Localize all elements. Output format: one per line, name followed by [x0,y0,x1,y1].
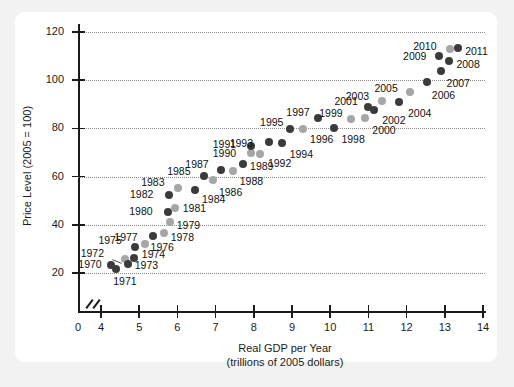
x-axis-title-main: Real GDP per Year [175,341,395,355]
data-point-1974[interactable] [130,254,138,262]
data-point-2003[interactable] [378,97,386,105]
x-tick-4 [100,305,102,318]
data-point-label-1992: 1992 [268,158,291,169]
data-point-1986[interactable] [209,176,217,184]
data-point-1998[interactable] [330,124,338,132]
data-point-1994[interactable] [278,139,286,147]
x-tick-label-14: 14 [468,322,498,333]
data-point-1993[interactable] [265,138,273,146]
y-tick-20 [72,272,85,274]
data-point-label-2004: 2004 [408,108,431,119]
y-tick-60 [72,176,85,178]
x-tick-label-12: 12 [392,322,422,333]
data-point-1995[interactable] [286,125,294,133]
data-point-label-2008: 2008 [456,59,479,70]
x-tick-label-5: 5 [124,322,154,333]
data-point-label-1983: 1983 [141,177,164,188]
data-point-1978[interactable] [160,229,168,237]
scatter-plot: 20406080100120 04567891011121314 1970197… [0,0,514,387]
data-point-2002[interactable] [370,106,378,114]
y-tick-label-20: 20 [30,267,64,278]
data-point-label-1998: 1998 [341,134,364,145]
x-tick-label-13: 13 [430,322,460,333]
data-point-2010[interactable] [446,45,454,53]
data-point-1984[interactable] [191,186,199,194]
data-point-2007[interactable] [437,67,445,75]
x-axis-title: Real GDP per Year (trillions of 2005 dol… [175,341,395,369]
data-point-label-1980: 1980 [129,206,152,217]
gridline-y-40 [78,225,485,226]
data-point-label-2003: 2003 [346,91,369,102]
data-point-2005[interactable] [406,88,414,96]
data-point-label-2007: 2007 [447,78,470,89]
x-tick-6 [177,305,179,318]
data-point-1977[interactable] [149,232,157,240]
data-point-2011[interactable] [454,44,462,52]
data-point-label-1988: 1988 [240,176,263,187]
data-point-1996[interactable] [299,125,307,133]
data-point-label-1978: 1978 [171,232,194,243]
gridline-y-20 [78,273,485,274]
x-tick-10 [329,305,331,318]
data-point-1987[interactable] [217,166,225,174]
data-point-label-2000: 2000 [372,125,395,136]
data-point-2009[interactable] [435,52,443,60]
data-point-label-1987: 1987 [185,159,208,170]
data-point-label-1971: 1971 [113,276,136,287]
data-point-label-1979: 1979 [177,220,200,231]
x-tick-11 [368,305,370,318]
data-point-1975[interactable] [131,243,139,251]
y-tick-40 [72,224,85,226]
data-point-label-1972: 1972 [81,248,104,259]
x-tick-label-11: 11 [353,322,383,333]
x-tick-label-10: 10 [315,322,345,333]
y-tick-label-40: 40 [30,219,64,230]
data-point-label-1999: 1999 [319,108,342,119]
data-point-1989[interactable] [239,160,247,168]
y-tick-120 [72,31,85,33]
data-point-label-2009: 2009 [403,51,426,62]
data-point-label-1976: 1976 [151,242,174,253]
data-point-label-1994: 1994 [290,149,313,160]
x-axis-title-units: (trillions of 2005 dollars) [175,355,395,369]
data-point-label-1986: 1986 [219,187,242,198]
data-point-label-1977: 1977 [114,232,137,243]
y-tick-100 [72,79,85,81]
data-point-1971[interactable] [112,265,120,273]
data-point-1988[interactable] [229,167,237,175]
data-point-2004[interactable] [395,98,403,106]
data-point-1981[interactable] [171,204,179,212]
data-point-1999[interactable] [347,115,355,123]
data-point-1983[interactable] [174,184,182,192]
y-axis-line [78,24,80,313]
data-point-1976[interactable] [141,240,149,248]
y-tick-label-80: 80 [30,122,64,133]
data-point-label-2002: 2002 [382,115,405,126]
x-tick-label-9: 9 [277,322,307,333]
data-point-2008[interactable] [445,57,453,65]
x-tick-label-6: 6 [162,322,192,333]
y-tick-label-60: 60 [30,171,64,182]
y-tick-label-120: 120 [30,26,64,37]
x-tick-8 [253,305,255,318]
data-point-2006[interactable] [423,78,431,86]
data-point-2000[interactable] [361,114,369,122]
x-tick-13 [444,305,446,318]
data-point-1982[interactable] [165,191,173,199]
data-point-label-1997: 1997 [286,107,309,118]
y-tick-80 [72,128,85,130]
data-point-1992[interactable] [256,150,264,158]
x-tick-label-7: 7 [201,322,231,333]
data-point-label-2011: 2011 [465,46,488,57]
x-tick-label-4: 4 [86,322,116,333]
data-point-label-2005: 2005 [374,83,397,94]
x-tick-12 [406,305,408,318]
gridline-y-120 [78,32,485,33]
data-point-label-1970: 1970 [78,259,101,270]
data-point-label-1993: 1993 [230,138,253,149]
x-tick-14 [482,305,484,318]
gridline-y-60 [78,177,485,178]
data-point-1985[interactable] [200,172,208,180]
y-axis-title: Price Level (2005 = 100) [21,86,33,246]
data-point-label-1973: 1973 [135,260,158,271]
